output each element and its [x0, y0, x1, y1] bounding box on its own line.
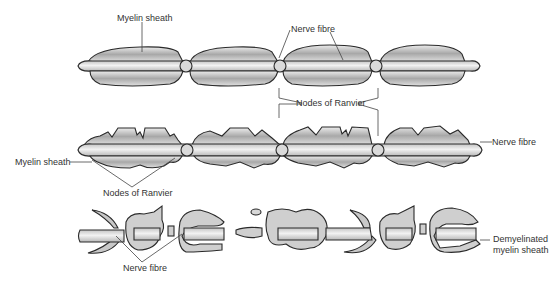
label-demyelinated-line1: Demyelinated	[493, 234, 548, 245]
label-nerve-fibre-mid: Nerve fibre	[492, 137, 536, 148]
label-nodes-of-ranvier-mid: Nodes of Ranvier	[103, 188, 173, 199]
label-myelin-sheath-top: Myelin sheath	[117, 13, 173, 24]
label-nerve-fibre-bottom: Nerve fibre	[123, 263, 167, 274]
panel-3-demyelinated	[79, 206, 481, 253]
panel-1-healthy	[78, 45, 480, 86]
label-myelin-sheath-mid: Myelin sheath	[15, 157, 71, 168]
label-nodes-of-ranvier-top: Nodes of Ranvier	[296, 98, 366, 109]
myelin-diagram	[0, 0, 558, 284]
panel-2-damaged	[78, 126, 482, 168]
label-nerve-fibre-top: Nerve fibre	[291, 24, 335, 35]
label-demyelinated-line2: myelin sheath	[493, 245, 549, 256]
